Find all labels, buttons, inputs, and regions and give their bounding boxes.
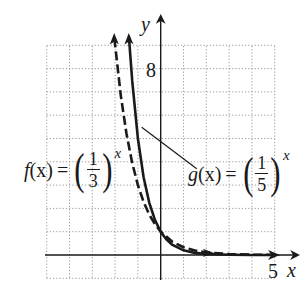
g-left-paren: ( [243, 152, 253, 196]
f-function-label: f (x) = ( 1 3 ) x [24, 148, 121, 192]
f-numerator: 1 [87, 150, 100, 170]
f-arg: (x) [30, 160, 53, 180]
f-left-paren: ( [74, 148, 84, 192]
f-equals: = [57, 160, 68, 180]
g-denominator: 5 [257, 174, 266, 194]
x-axis-label: x [287, 260, 296, 280]
f-denominator: 3 [89, 170, 98, 190]
g-exponent: x [283, 148, 290, 163]
g-equals: = [225, 164, 236, 184]
y-axis-label: y [141, 14, 150, 34]
f-right-paren: ) [102, 148, 112, 192]
graph-canvas [0, 0, 308, 293]
g-function-label: g (x) = ( 1 5 ) x [188, 152, 290, 196]
g-right-paren: ) [270, 152, 280, 196]
g-name: g [188, 164, 198, 184]
y-tick-8: 8 [146, 60, 156, 80]
g-numerator: 1 [255, 154, 268, 174]
f-fraction: 1 3 [87, 150, 100, 190]
x-tick-5: 5 [268, 261, 278, 281]
g-arg: (x) [198, 164, 221, 184]
g-fraction: 1 5 [255, 154, 268, 194]
f-exponent: x [114, 146, 121, 161]
